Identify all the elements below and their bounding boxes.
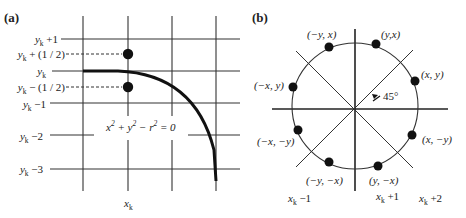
point-neg-x-neg-y <box>294 126 303 135</box>
label-neg-x-y: (−x, y) <box>254 79 284 92</box>
panel-b-label: (b) <box>252 10 268 25</box>
label-x-y: (x, y) <box>421 68 444 81</box>
label-neg-y-neg-x: (−y, −x) <box>306 174 343 187</box>
point-neg-y-neg-x <box>325 158 334 167</box>
angle-marker: 45° <box>372 90 398 102</box>
lower-midpoint-dot <box>123 82 133 92</box>
point-neg-x-y <box>289 83 298 92</box>
point-x-neg-y <box>408 131 417 140</box>
point-neg-y-x <box>325 43 334 52</box>
column-label-x-kp2: xk +2 <box>418 192 442 207</box>
row-label-y-km1: yk −1 <box>22 98 46 113</box>
label-y-x: (y,x) <box>381 28 401 41</box>
panel-b: (b) (−y, x) (y,x) (−x, y) (x, y) (−x, −y… <box>252 10 452 207</box>
circle-equation: x2 + y2 − r2 = 0 <box>105 119 176 133</box>
upper-midpoint-dot <box>123 49 133 59</box>
angle-label: 45° <box>383 90 398 102</box>
column-label-x-k: xk <box>123 197 133 212</box>
grid-horizontal-lines <box>50 39 240 169</box>
panel-b-column-labels: xk −1 xk +1 xk +2 <box>287 190 442 207</box>
row-label-y-kp1: yk +1 <box>34 33 58 48</box>
label-neg-x-neg-y: (−x, −y) <box>257 135 295 148</box>
panel-a: (a) yk +1 <box>4 10 240 212</box>
row-label-y-k-minus-half: yk − (1 / 2) <box>17 81 66 96</box>
row-label-y-k-plus-half: yk + (1 / 2) <box>17 48 66 63</box>
panel-a-label: (a) <box>4 10 19 25</box>
label-y-neg-x: (y, −x) <box>369 174 399 187</box>
label-x-neg-y: (x, −y) <box>422 133 452 146</box>
row-label-y-km3: yk −3 <box>19 163 44 178</box>
label-neg-y-x: (−y, x) <box>307 28 337 41</box>
point-y-x <box>372 40 381 49</box>
circle-midpoint-figure: (a) yk +1 <box>0 0 466 218</box>
row-labels: yk +1 yk + (1 / 2) yk yk − (1 / 2) yk −1… <box>17 33 66 178</box>
point-x-y <box>411 77 420 86</box>
row-label-y-km2: yk −2 <box>19 130 43 145</box>
column-label-x-kp1: xk +1 <box>375 190 399 205</box>
row-label-y-k: yk <box>36 65 46 80</box>
column-label-x-km1: xk −1 <box>287 192 311 207</box>
point-y-neg-x <box>374 162 383 171</box>
